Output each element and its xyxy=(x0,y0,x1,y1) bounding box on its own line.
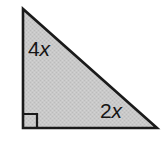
side-label-horizontal-variable: x xyxy=(111,99,121,122)
triangle-body xyxy=(23,9,157,128)
side-label-horizontal-coefficient: 2 xyxy=(100,99,111,122)
side-label-vertical-leg: 4x xyxy=(28,38,50,59)
side-label-vertical-coefficient: 4 xyxy=(28,37,39,60)
figure-canvas: 4x 2x xyxy=(0,0,163,144)
triangle-figure xyxy=(0,0,163,144)
side-label-vertical-variable: x xyxy=(39,37,49,60)
side-label-horizontal-leg: 2x xyxy=(100,100,122,121)
